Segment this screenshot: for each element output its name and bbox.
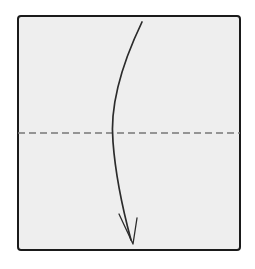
origami-canvas xyxy=(0,0,255,269)
origami-diagram xyxy=(0,0,255,269)
